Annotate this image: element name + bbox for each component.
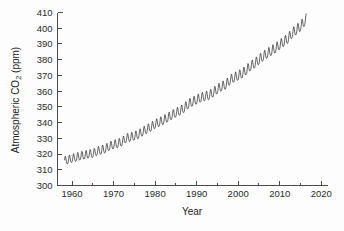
y-tick-label-340: 340 [37,117,53,128]
data-group [65,14,307,164]
y-axis-title: Atmospheric CO2 (ppm) [10,47,23,153]
x-axis-tick-marks [72,181,321,186]
chart-canvas: 300310320330340350360370380390400410 196… [0,0,344,231]
x-axis-title: Year [182,206,203,217]
y-axis-tick-labels: 300310320330340350360370380390400410 [37,7,53,191]
co2-keeling-curve-line [65,14,307,164]
x-tick-label-1960: 1960 [61,188,82,199]
y-axis-title-post: (ppm) [10,47,21,76]
y-tick-label-380: 380 [37,54,53,65]
axis-frame [58,13,328,186]
y-tick-label-390: 390 [37,38,53,49]
y-tick-label-310: 310 [37,164,53,175]
y-tick-label-300: 300 [37,180,53,191]
y-tick-label-350: 350 [37,101,53,112]
x-tick-label-2020: 2020 [311,188,332,199]
x-axis-tick-labels: 1960197019801990200020102020 [61,188,331,199]
y-tick-label-400: 400 [37,23,53,34]
y-tick-label-370: 370 [37,70,53,81]
x-tick-label-1990: 1990 [186,188,207,199]
y-axis-tick-marks [58,13,62,186]
x-tick-label-1970: 1970 [103,188,124,199]
axes-group: 300310320330340350360370380390400410 196… [37,7,332,199]
y-tick-label-320: 320 [37,148,53,159]
y-tick-label-330: 330 [37,133,53,144]
y-tick-label-410: 410 [37,7,53,18]
x-tick-label-1980: 1980 [145,188,166,199]
co2-chart-figure: 300310320330340350360370380390400410 196… [0,0,344,231]
y-tick-label-360: 360 [37,86,53,97]
x-tick-label-2010: 2010 [269,188,290,199]
x-tick-label-2000: 2000 [228,188,249,199]
y-axis-title-pre: Atmospheric CO [10,80,21,154]
